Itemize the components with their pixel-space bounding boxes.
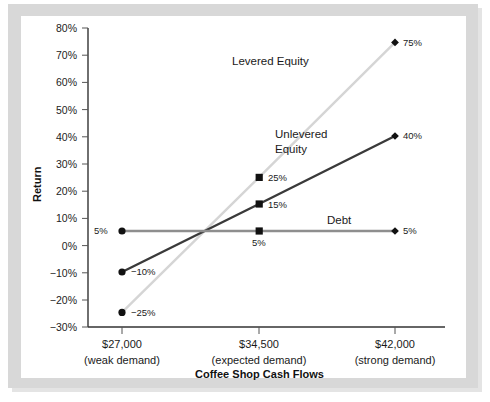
- data-point-debt-weak: [118, 227, 125, 234]
- data-point-unlevered-expected: [256, 200, 263, 207]
- chart-plot-area: [21, 16, 466, 378]
- y-tick-label-30: 30%: [37, 158, 77, 170]
- x-tick-sublabel-expected: (expected demand): [199, 354, 319, 366]
- y-tick-label-40: 40%: [37, 131, 77, 143]
- series-label-unlevered-equity-line2: Equity: [275, 143, 307, 155]
- data-point-unlevered-weak: [118, 268, 125, 275]
- data-label-levered-strong: 75%: [403, 37, 422, 48]
- y-tick-label-0: 0%: [37, 240, 77, 252]
- x-tick-label-expected: $34,500: [199, 338, 319, 350]
- data-point-debt-expected: [256, 227, 263, 234]
- data-label-levered-weak: −25%: [131, 307, 156, 318]
- y-axis-ticks: [82, 28, 88, 327]
- series-label-debt: Debt: [327, 214, 351, 226]
- x-tick-sublabel-strong: (strong demand): [335, 354, 455, 366]
- data-label-unlevered-expected: 15%: [268, 199, 287, 210]
- y-tick-label-10: 10%: [37, 212, 77, 224]
- data-label-debt-weak: 5%: [94, 225, 108, 236]
- y-axis-title: Return: [31, 167, 43, 202]
- x-axis-title: Coffee Shop Cash Flows: [147, 368, 372, 380]
- data-point-levered-expected: [256, 174, 263, 181]
- series-label-unlevered-equity-line1: Unlevered: [275, 128, 327, 140]
- series-label-levered-equity: Levered Equity: [232, 55, 309, 67]
- data-point-debt-strong: [391, 227, 399, 235]
- y-tick-label-50: 50%: [37, 104, 77, 116]
- y-tick-label-neg20: −20%: [33, 294, 77, 306]
- y-tick-label-neg30: −30%: [33, 321, 77, 333]
- y-tick-label-neg10: −10%: [33, 267, 77, 279]
- data-label-levered-expected: 25%: [268, 172, 287, 183]
- data-label-unlevered-strong: 40%: [403, 130, 422, 141]
- y-tick-label-20: 20%: [37, 185, 77, 197]
- data-label-debt-strong: 5%: [403, 225, 417, 236]
- x-tick-label-strong: $42,000: [335, 338, 455, 350]
- y-tick-label-70: 70%: [37, 49, 77, 61]
- y-tick-label-80: 80%: [37, 22, 77, 34]
- data-label-unlevered-weak: −10%: [131, 266, 156, 277]
- x-axis-ticks: [122, 327, 395, 334]
- chart-panel: 80% 70% 60% 50% 40% 30% 20% 10% 0% −10% …: [21, 16, 466, 378]
- data-label-debt-expected: 5%: [252, 237, 266, 248]
- x-tick-sublabel-weak: (weak demand): [62, 354, 182, 366]
- data-point-levered-weak: [118, 309, 125, 316]
- figure-container: 80% 70% 60% 50% 40% 30% 20% 10% 0% −10% …: [0, 0, 490, 402]
- y-tick-label-60: 60%: [37, 76, 77, 88]
- x-tick-label-weak: $27,000: [62, 338, 182, 350]
